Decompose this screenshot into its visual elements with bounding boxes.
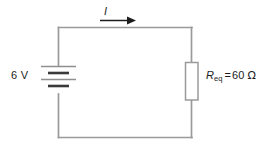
resistance-symbol: R bbox=[206, 69, 214, 81]
circuit-diagram: 6 V I Req=60 Ω bbox=[0, 0, 267, 146]
circuit-loop-wires bbox=[59, 28, 193, 138]
current-arrow-head bbox=[127, 17, 136, 25]
current-arrow-icon bbox=[100, 17, 136, 25]
resistance-equals-sign: = bbox=[224, 69, 231, 81]
resistor-symbol bbox=[186, 63, 199, 101]
ohm-unit: Ω bbox=[248, 69, 257, 82]
resistance-value: 60 bbox=[232, 69, 244, 81]
resistance-subscript: eq bbox=[214, 74, 222, 83]
resistance-label: Req=60 Ω bbox=[206, 70, 256, 81]
battery-voltage-label: 6 V bbox=[11, 70, 28, 81]
battery-symbol bbox=[41, 67, 76, 87]
current-symbol-label: I bbox=[104, 6, 107, 17]
